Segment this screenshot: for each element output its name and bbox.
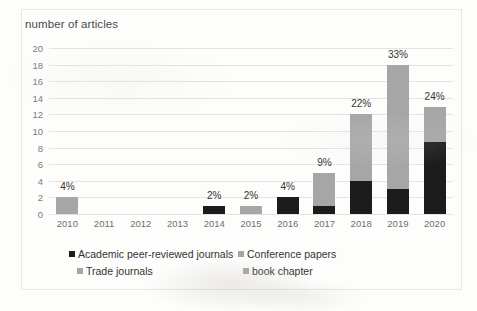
y-axis-tick-label: 12 [32, 109, 43, 120]
y-axis-tick-label: 6 [38, 159, 43, 170]
y-axis-tick-label: 16 [32, 76, 43, 87]
y-axis-tick-label: 8 [38, 142, 43, 153]
legend-label: Conference papers [247, 248, 336, 260]
bar-segment [313, 206, 335, 214]
bar-stack[interactable] [277, 197, 299, 214]
bar-group [416, 48, 453, 214]
y-axis-tick-label: 2 [38, 192, 43, 203]
legend-label: Academic peer-reviewed journals [78, 248, 233, 260]
legend-label: book chapter [252, 265, 313, 277]
y-axis-tick-label: 14 [32, 92, 43, 103]
legend-row-2: Trade journalsbook chapter [55, 265, 385, 282]
bar-segment [424, 107, 446, 142]
legend-swatch-icon [238, 251, 244, 257]
legend-item[interactable]: book chapter [243, 265, 313, 277]
legend-item[interactable]: Conference papers [238, 248, 336, 260]
bar-stack[interactable] [350, 114, 372, 214]
chart-axis-title: number of articles [25, 18, 118, 30]
x-axis-tick-label: 2012 [130, 218, 151, 229]
x-axis-tick-label: 2016 [277, 218, 298, 229]
gridline [49, 214, 453, 215]
bar-group [343, 48, 380, 214]
bar-data-label: 33% [388, 49, 408, 60]
bar-stack[interactable] [203, 206, 225, 214]
y-axis-tick-label: 0 [38, 209, 43, 220]
x-axis-tick-label: 2017 [314, 218, 335, 229]
x-axis-tick-label: 2019 [387, 218, 408, 229]
bar-data-label: 24% [425, 91, 445, 102]
x-axis-tick-label: 2013 [167, 218, 188, 229]
bar-stack[interactable] [240, 206, 262, 214]
x-axis-tick-label: 2011 [94, 218, 114, 229]
bar-segment [387, 65, 409, 190]
legend-swatch-icon [69, 251, 75, 257]
bar-segment [240, 206, 262, 214]
y-axis-tick-label: 20 [32, 43, 43, 54]
bar-segment [350, 114, 372, 180]
x-axis-tick-label: 2015 [240, 218, 261, 229]
bar-group [306, 48, 343, 214]
bar-data-label: 22% [351, 98, 371, 109]
bar-segment [203, 206, 225, 214]
bar-segment [56, 197, 78, 214]
bar-group [380, 48, 417, 214]
bar-data-label: 4% [280, 181, 294, 192]
bar-data-label: 9% [317, 157, 331, 168]
bar-segment [350, 181, 372, 214]
legend-row-1: Academic peer-reviewed journalsConferenc… [55, 248, 385, 265]
bar-stack[interactable] [424, 107, 446, 214]
legend-swatch-icon [77, 268, 83, 274]
x-axis-tick-label: 2018 [351, 218, 372, 229]
legend-item[interactable]: Academic peer-reviewed journals [69, 248, 233, 260]
bars-layer: 4%2%2%4%9%22%33%24% [49, 48, 453, 214]
bar-segment [313, 173, 335, 206]
bar-group [159, 48, 196, 214]
y-axis-tick-label: 4 [38, 175, 43, 186]
y-axis-tick-label: 18 [32, 59, 43, 70]
x-axis-tick-label: 2014 [204, 218, 225, 229]
x-axis-tick-label: 2010 [57, 218, 78, 229]
bar-data-label: 2% [207, 190, 221, 201]
chart-page: number of articles 02468101214161820 4%2… [0, 0, 477, 311]
bar-data-label: 2% [244, 190, 258, 201]
bar-segment [387, 189, 409, 214]
legend-item[interactable]: Trade journals [77, 265, 153, 277]
bar-segment [424, 142, 446, 214]
bar-data-label: 4% [60, 181, 74, 192]
bar-stack[interactable] [387, 65, 409, 214]
bar-stack[interactable] [313, 173, 335, 214]
bar-group [86, 48, 123, 214]
x-axis-tick-label: 2020 [424, 218, 445, 229]
legend-label: Trade journals [86, 265, 153, 277]
y-axis-tick-label: 10 [32, 126, 43, 137]
legend-swatch-icon [243, 268, 249, 274]
chart-legend: Academic peer-reviewed journalsConferenc… [55, 248, 385, 282]
bar-segment [277, 197, 299, 214]
x-axis: 2010201120122013201420152016201720182019… [49, 216, 453, 234]
bar-stack[interactable] [56, 197, 78, 214]
bar-group [122, 48, 159, 214]
